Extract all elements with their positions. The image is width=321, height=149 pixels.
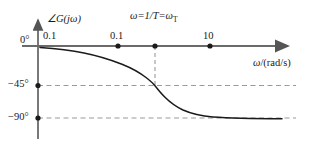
y-tick-label-minus90deg: −90°	[8, 112, 29, 123]
bode-phase-plot-figure: ∠G(jω) ω=1/T=ωT 0° −45° −90° 0.1 0.1 10 …	[0, 0, 321, 149]
y-tick-label-0deg: 0°	[20, 35, 29, 46]
x-axis-label-units: /(rad/s)	[260, 57, 290, 68]
x-tick-label-10: 10	[203, 31, 214, 42]
marker-minus45	[35, 83, 40, 88]
marker-tick-0.1-second	[115, 43, 120, 48]
marker-tick-10	[207, 43, 212, 48]
x-axis-label: ω/(rad/s)	[253, 58, 291, 69]
y-tick-label-minus45deg: −45°	[8, 79, 29, 90]
phase-response-curve	[40, 48, 282, 119]
corner-frequency-annotation: ω=1/T=ωT	[130, 11, 178, 24]
marker-corner-frequency	[152, 43, 157, 48]
x-tick-label-0.1-first: 0.1	[43, 31, 56, 42]
corner-frequency-annotation-text: ω=1/T=ω	[130, 10, 173, 21]
x-tick-label-0.1-second: 0.1	[110, 31, 123, 42]
y-axis-label: ∠G(jω)	[47, 14, 81, 25]
marker-minus90	[35, 115, 40, 120]
corner-frequency-annotation-subscript: T	[173, 15, 178, 24]
